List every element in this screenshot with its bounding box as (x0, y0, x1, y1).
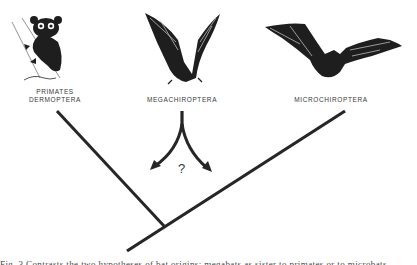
uncertainty-question-mark: ? (178, 161, 185, 176)
microbat-illustration (265, 23, 402, 77)
label-primates: PRIMATES DERMOPTERA (22, 88, 88, 104)
label-megachiroptera-text: MEGACHIROPTERA (140, 96, 224, 104)
label-megachiroptera: MEGACHIROPTERA (140, 96, 224, 104)
primates-branch (57, 111, 164, 226)
right-arrowhead-icon (202, 161, 212, 172)
label-dermoptera-line2: DERMOPTERA (22, 96, 88, 104)
tarsier-illustration (12, 16, 62, 80)
fruit-bat-illustration (145, 13, 220, 84)
label-microchiroptera: MICROCHIROPTERA (285, 96, 377, 104)
base-branch (127, 111, 345, 251)
tree-branches (57, 111, 345, 251)
mega-right-arrow-shaft (182, 124, 207, 168)
phylogeny-diagram (0, 0, 417, 265)
figure-caption: Fig. 3 Contrasts the two hypotheses of b… (0, 258, 417, 265)
label-primates-line1: PRIMATES (22, 88, 88, 96)
mega-left-arrow-shaft (155, 124, 182, 166)
label-microchiroptera-text: MICROCHIROPTERA (285, 96, 377, 104)
